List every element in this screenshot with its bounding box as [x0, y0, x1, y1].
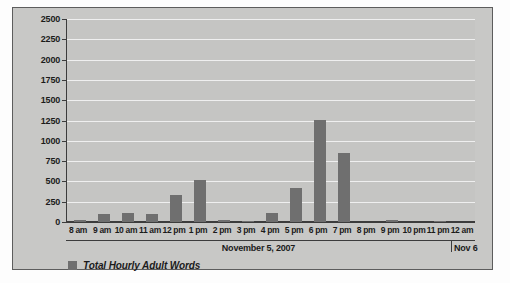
x-tick-label: 1 pm [186, 225, 210, 235]
y-tick-mark-250 [62, 202, 66, 203]
x-tick-label: 8 am [66, 225, 90, 235]
bar[interactable] [290, 188, 301, 222]
y-tick-label-2500: 2500 [20, 15, 60, 24]
y-tick-mark-1500 [62, 100, 66, 101]
date-label-main: November 5, 2007 [66, 243, 451, 253]
bar[interactable] [194, 180, 205, 222]
x-tick-label: 12 pm [162, 225, 186, 235]
bars-layer [68, 19, 475, 222]
y-tick-label-750: 750 [20, 157, 60, 166]
bar[interactable] [314, 120, 325, 222]
x-tick-label: 10 am [114, 225, 138, 235]
y-tick-label-2000: 2000 [20, 56, 60, 65]
bar[interactable] [146, 214, 157, 222]
y-tick-label-1750: 1750 [20, 76, 60, 85]
x-tick-label: 11 am [138, 225, 162, 235]
x-tick-label: 10 pm [402, 225, 426, 235]
x-tick-label: 11 pm [426, 225, 450, 235]
x-tick-label: 2 pm [210, 225, 234, 235]
y-tick-mark-2000 [62, 60, 66, 61]
x-tick-label: 9 am [90, 225, 114, 235]
x-axis-line [66, 222, 475, 223]
bar[interactable] [266, 213, 277, 222]
y-tick-label-2250: 2250 [20, 35, 60, 44]
y-tick-mark-500 [62, 181, 66, 182]
x-tick-label: 12 am [450, 225, 474, 235]
bar[interactable] [338, 153, 349, 222]
y-tick-label-1000: 1000 [20, 137, 60, 146]
y-tick-mark-750 [62, 161, 66, 162]
y-tick-mark-1000 [62, 141, 66, 142]
y-tick-mark-1750 [62, 80, 66, 81]
x-tick-label: 6 pm [306, 225, 330, 235]
y-tick-label-0: 0 [20, 218, 60, 227]
legend-label: Total Hourly Adult Words [83, 260, 200, 271]
date-band-line [66, 240, 475, 241]
chart-panel: 25002250200017501500125010007505002500 8… [12, 7, 493, 270]
x-tick-label: 8 pm [354, 225, 378, 235]
x-tick-label: 7 pm [330, 225, 354, 235]
y-tick-mark-2250 [62, 39, 66, 40]
date-band-divider [451, 240, 452, 252]
x-tick-label: 5 pm [282, 225, 306, 235]
legend-swatch-total-hourly-adult-words [68, 261, 77, 270]
y-tick-label-500: 500 [20, 177, 60, 186]
y-tick-mark-2500 [62, 19, 66, 20]
y-tick-label-1500: 1500 [20, 96, 60, 105]
x-tick-label: 4 pm [258, 225, 282, 235]
x-tick-label: 3 pm [234, 225, 258, 235]
chart-legend: Total Hourly Adult Words [68, 260, 200, 271]
y-tick-mark-1250 [62, 121, 66, 122]
bar[interactable] [98, 214, 109, 222]
date-label-next: Nov 6 [454, 243, 478, 253]
x-tick-label: 9 pm [378, 225, 402, 235]
plot-area [66, 19, 475, 222]
chart-screenshot: 25002250200017501500125010007505002500 8… [0, 0, 510, 283]
bar[interactable] [122, 213, 133, 222]
y-tick-label-1250: 1250 [20, 117, 60, 126]
bar[interactable] [170, 195, 181, 222]
y-tick-label-250: 250 [20, 198, 60, 207]
